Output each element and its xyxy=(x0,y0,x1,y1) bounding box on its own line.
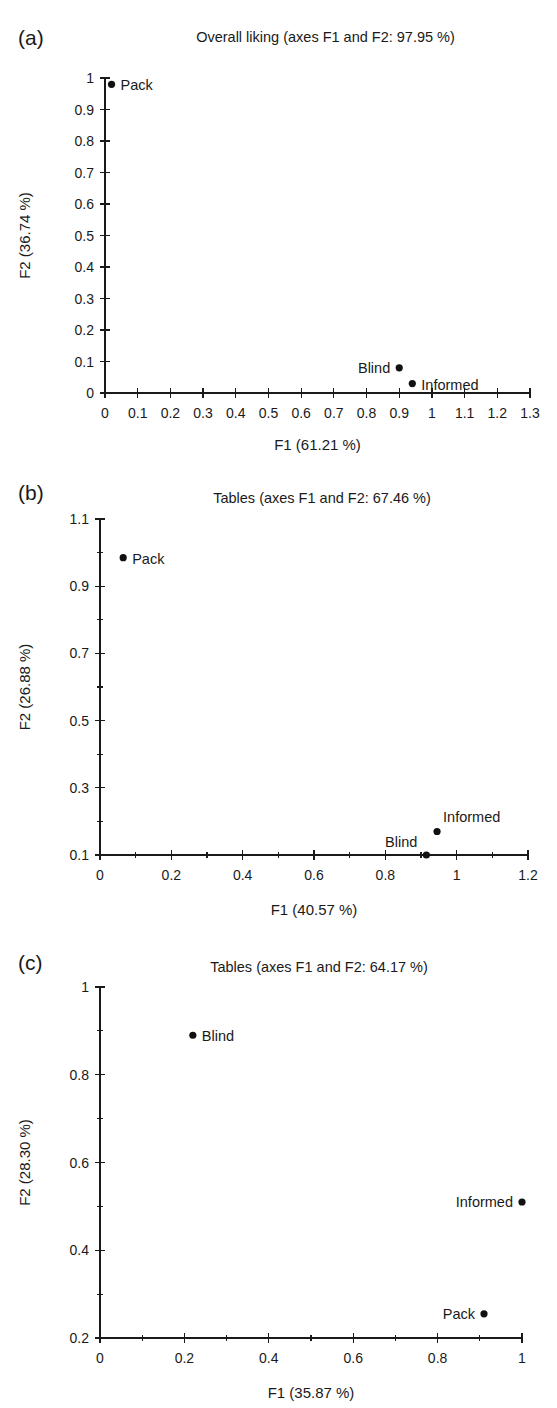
plot-title: Tables (axes F1 and F2: 64.17 %) xyxy=(210,959,428,975)
x-axis-title: F1 (35.87 %) xyxy=(268,1384,355,1401)
y-tick-label: 0.7 xyxy=(75,165,95,181)
x-tick-label: 0.1 xyxy=(128,405,148,421)
x-tick-label: 0.9 xyxy=(389,405,409,421)
y-tick-label: 0.3 xyxy=(75,291,95,307)
point-label-pack: Pack xyxy=(443,1306,476,1322)
panel-letter: (b) xyxy=(18,481,44,504)
y-tick-label: 0.1 xyxy=(75,354,95,370)
data-point-blind xyxy=(189,1032,196,1039)
x-tick-label: 0.4 xyxy=(233,867,253,883)
y-tick-label: 0 xyxy=(86,385,94,401)
y-tick-label: 0.8 xyxy=(70,1067,90,1083)
y-tick-label: 0.4 xyxy=(70,1242,90,1258)
y-tick-label: 0.6 xyxy=(70,1155,90,1171)
data-point-pack xyxy=(108,81,115,88)
x-tick-label: 0 xyxy=(96,1350,104,1366)
x-tick-label: 0.8 xyxy=(376,867,396,883)
point-label-blind: Blind xyxy=(385,834,417,850)
y-tick-label: 0.5 xyxy=(75,228,95,244)
y-tick-label: 0.3 xyxy=(70,780,90,796)
y-axis-title: F2 (28.30 %) xyxy=(16,1119,33,1206)
panel-c: (c)Tables (axes F1 and F2: 64.17 %)0.20.… xyxy=(0,930,557,1408)
x-tick-label: 0.5 xyxy=(259,405,279,421)
x-tick-label: 1 xyxy=(518,1350,526,1366)
x-tick-label: 1.1 xyxy=(455,405,475,421)
panel-letter: (a) xyxy=(18,26,44,49)
point-label-pack: Pack xyxy=(132,551,165,567)
data-point-informed xyxy=(518,1198,525,1205)
x-tick-label: 0.8 xyxy=(357,405,377,421)
y-tick-label: 0.5 xyxy=(70,713,90,729)
point-label-blind: Blind xyxy=(358,360,390,376)
x-tick-label: 0.6 xyxy=(304,867,324,883)
plot-area: (a)Overall liking (axes F1 and F2: 97.95… xyxy=(0,0,557,470)
x-tick-label: 1.2 xyxy=(518,867,538,883)
x-tick-label: 0.2 xyxy=(162,867,182,883)
y-tick-label: 0.4 xyxy=(75,259,95,275)
pca-figure: (a)Overall liking (axes F1 and F2: 97.95… xyxy=(0,0,557,1408)
x-tick-label: 0 xyxy=(96,867,104,883)
plot-area: (b)Tables (axes F1 and F2: 67.46 %)0.10.… xyxy=(0,460,557,930)
y-tick-label: 0.9 xyxy=(70,578,90,594)
y-axis-title: F2 (26.88 %) xyxy=(16,644,33,731)
y-tick-label: 0.6 xyxy=(75,196,95,212)
point-label-blind: Blind xyxy=(202,1028,234,1044)
x-tick-label: 1.2 xyxy=(488,405,508,421)
x-axis-title: F1 (61.21 %) xyxy=(274,436,361,453)
plot-title: Tables (axes F1 and F2: 67.46 %) xyxy=(213,490,431,506)
data-point-blind xyxy=(423,851,430,858)
point-label-informed: Informed xyxy=(421,377,478,393)
panel-b: (b)Tables (axes F1 and F2: 67.46 %)0.10.… xyxy=(0,460,557,930)
x-tick-label: 0.8 xyxy=(428,1350,448,1366)
panel-a: (a)Overall liking (axes F1 and F2: 97.95… xyxy=(0,0,557,470)
y-tick-label: 0.9 xyxy=(75,102,95,118)
x-tick-label: 0.6 xyxy=(343,1350,363,1366)
data-point-pack xyxy=(480,1310,487,1317)
x-tick-label: 1 xyxy=(453,867,461,883)
point-label-pack: Pack xyxy=(121,77,154,93)
y-tick-label: 0.2 xyxy=(75,322,95,338)
x-tick-label: 0 xyxy=(101,405,109,421)
x-tick-label: 0.6 xyxy=(291,405,311,421)
x-tick-label: 0.2 xyxy=(161,405,181,421)
point-label-informed: Informed xyxy=(456,1194,513,1210)
x-tick-label: 1.3 xyxy=(520,405,540,421)
x-tick-label: 0.4 xyxy=(259,1350,279,1366)
plot-title: Overall liking (axes F1 and F2: 97.95 %) xyxy=(196,29,455,45)
data-point-blind xyxy=(396,364,403,371)
plot-area: (c)Tables (axes F1 and F2: 64.17 %)0.20.… xyxy=(0,930,557,1408)
y-tick-label: 0.7 xyxy=(70,645,90,661)
y-tick-label: 1.1 xyxy=(70,511,90,527)
point-label-informed: Informed xyxy=(443,809,500,825)
y-tick-label: 1 xyxy=(86,70,94,86)
x-tick-label: 0.2 xyxy=(175,1350,195,1366)
y-tick-label: 0.2 xyxy=(70,1330,90,1346)
y-tick-label: 0.8 xyxy=(75,133,95,149)
x-tick-label: 0.3 xyxy=(193,405,213,421)
panel-letter: (c) xyxy=(18,951,43,974)
y-axis-title: F2 (36.74 %) xyxy=(16,192,33,279)
data-point-pack xyxy=(120,554,127,561)
x-tick-label: 1 xyxy=(428,405,436,421)
y-tick-label: 1 xyxy=(81,979,89,995)
data-point-informed xyxy=(433,828,440,835)
x-tick-label: 0.4 xyxy=(226,405,246,421)
y-tick-label: 0.1 xyxy=(70,847,90,863)
x-tick-label: 0.7 xyxy=(324,405,344,421)
data-point-informed xyxy=(409,380,416,387)
x-axis-title: F1 (40.57 %) xyxy=(271,901,358,918)
